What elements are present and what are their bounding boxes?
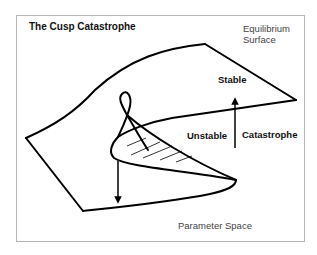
label-unstable: Unstable [187, 130, 227, 141]
label-equilibrium-surface: Equilibrium Surface [243, 23, 303, 45]
label-stable: Stable [218, 74, 247, 85]
diagram-title: The Cusp Catastrophe [29, 21, 136, 32]
label-parameter-space: Parameter Space [178, 220, 252, 231]
hatched-unstable-region [127, 138, 192, 162]
label-catastrophe: Catastrophe [242, 129, 297, 140]
equilibrium-surface [26, 44, 296, 211]
